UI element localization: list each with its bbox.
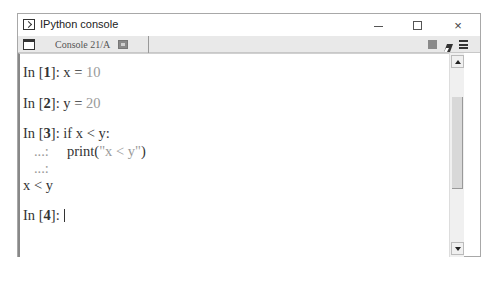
maximize-icon bbox=[413, 21, 422, 30]
stop-icon[interactable] bbox=[428, 40, 437, 49]
prompt: ]: bbox=[51, 64, 63, 80]
prompt: ]: bbox=[51, 125, 63, 141]
minimize-button[interactable] bbox=[363, 14, 393, 36]
prompt: In [ bbox=[23, 125, 44, 141]
prompt-number: 4 bbox=[44, 207, 51, 223]
scroll-down-button[interactable] bbox=[451, 242, 464, 255]
menu-icon[interactable] bbox=[459, 40, 468, 49]
number-literal: 10 bbox=[86, 64, 101, 80]
window-title: IPython console bbox=[40, 18, 118, 30]
prompt: In [ bbox=[23, 95, 44, 111]
minimize-icon bbox=[374, 26, 383, 27]
clear-console-icon[interactable] bbox=[443, 39, 454, 49]
code: if x < y: bbox=[63, 125, 109, 141]
console-output[interactable]: In [1]: x = 10 In [2]: y = 20 In [3]: if… bbox=[18, 53, 449, 257]
prompt: ]: bbox=[51, 207, 63, 223]
options-icon[interactable] bbox=[23, 39, 35, 50]
arrow-down-icon bbox=[455, 247, 461, 251]
console-line: ...: print("x < y") bbox=[23, 143, 146, 159]
code: y = bbox=[63, 95, 86, 111]
scrollbar-thumb[interactable] bbox=[452, 97, 463, 189]
number-literal: 20 bbox=[86, 95, 101, 111]
code: print( bbox=[49, 143, 99, 159]
title-bar[interactable]: IPython console × bbox=[18, 14, 480, 36]
console-line[interactable]: In [4]: bbox=[23, 207, 65, 223]
prompt: ]: bbox=[51, 95, 63, 111]
console-line: In [1]: x = 10 bbox=[23, 64, 100, 80]
tab-label: Console 21/A bbox=[55, 39, 110, 50]
text-cursor bbox=[64, 209, 65, 222]
scroll-up-button[interactable] bbox=[451, 55, 464, 68]
code: x = bbox=[63, 64, 86, 80]
console-output-line: x < y bbox=[23, 177, 53, 193]
console-line: In [2]: y = 20 bbox=[23, 95, 100, 111]
tab-console-21a[interactable]: Console 21/A bbox=[41, 36, 149, 53]
prompt-number: 1 bbox=[44, 64, 51, 80]
string-literal: "x < y" bbox=[99, 143, 141, 159]
prompt-number: 2 bbox=[44, 95, 51, 111]
prompt: In [ bbox=[23, 207, 44, 223]
console-line: ...: bbox=[23, 160, 49, 176]
code: ) bbox=[141, 143, 146, 159]
tab-bar: Console 21/A bbox=[18, 36, 480, 53]
continuation-prompt: ...: bbox=[23, 160, 49, 176]
close-button[interactable]: × bbox=[443, 14, 473, 36]
arrow-up-icon bbox=[455, 60, 461, 64]
maximize-button[interactable] bbox=[402, 14, 432, 36]
prompt: In [ bbox=[23, 64, 44, 80]
tab-close-icon[interactable] bbox=[118, 40, 128, 49]
output-text: x < y bbox=[23, 177, 53, 193]
terminal-icon bbox=[23, 19, 35, 30]
continuation-prompt: ...: bbox=[23, 143, 49, 159]
console-line: In [3]: if x < y: bbox=[23, 125, 110, 141]
prompt-number: 3 bbox=[44, 125, 51, 141]
close-icon: × bbox=[454, 18, 462, 33]
vertical-scrollbar[interactable] bbox=[449, 53, 464, 257]
ipython-console-window: IPython console × Console 21/A In [1]: x… bbox=[17, 13, 481, 257]
